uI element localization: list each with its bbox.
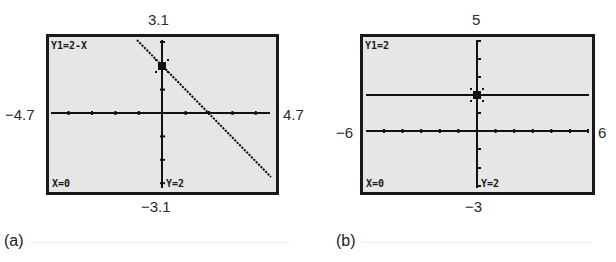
panel-b-divider	[362, 242, 592, 243]
panel-b-xmax-label: 6	[598, 125, 606, 140]
panel-a-xmax-label: 4.7	[283, 107, 304, 122]
panel-b-ymax-label: 5	[472, 12, 480, 27]
panel-a-trace-x: X=0	[52, 178, 70, 189]
panel-b-trace-y: Y=2	[481, 178, 499, 189]
panel-b-ymin-label: −3	[465, 199, 482, 214]
panel-a-equation: Y1=2-X	[51, 40, 87, 51]
panel-b-trace-x: X=0	[366, 178, 384, 189]
panel-b-calculator-screen: Y1=2 X=0 Y=2	[360, 34, 595, 196]
panel-b-xmin-label: −6	[336, 125, 353, 140]
panel-b-equation: Y1=2	[365, 40, 389, 51]
panel-b-label: (b)	[336, 233, 356, 249]
panel-a-label: (a)	[4, 233, 24, 249]
panel-a-xmin-label: −4.7	[5, 107, 35, 122]
panel-a-ymax-label: 3.1	[148, 12, 169, 27]
panel-a-ymin-label: −3.1	[141, 199, 171, 214]
panel-a-trace-y: Y=2	[166, 178, 184, 189]
panel-a-calculator-screen: Y1=2-X X=0 Y=2	[46, 34, 279, 196]
panel-a-divider	[30, 242, 290, 243]
